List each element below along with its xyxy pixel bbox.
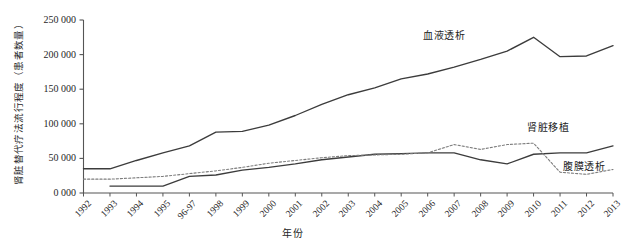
- series-line: [110, 146, 613, 186]
- series-label-hemodialysis: 血液透析: [423, 27, 465, 42]
- chart-container: 肾脏替代疗法流行程度（患者数量） 0 00050 000100 000150 0…: [0, 0, 629, 245]
- series-line: [84, 143, 614, 179]
- series-line: [84, 37, 614, 168]
- series-label-peritoneal-dialysis: 腹膜透析: [563, 158, 605, 173]
- series-label-kidney-transplant: 肾脏移植: [527, 119, 569, 134]
